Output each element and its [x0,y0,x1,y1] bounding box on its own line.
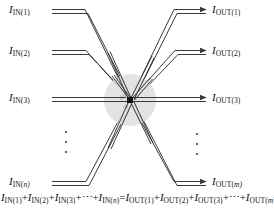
label-input-n-subscript: IN(n) [13,180,30,189]
conservation-equation: IIN(1)+IIN(2)+IIN(3)+⋯+IIN(n)=IOUT(1)+IO… [1,191,274,205]
label-input-1-subscript: IN(1) [13,8,30,17]
label-output-m-subscript: OUT(m) [216,180,242,189]
equation-rhs: IOUT(1)+IOUT(2)+IOUT(3)+⋯+IOUT(m) [125,191,274,203]
ellipsis-dot [196,143,198,145]
equation-rhs-ellipsis: ⋯ [229,191,240,203]
label-output-3: IOUT(3) [212,92,240,105]
ellipsis-dot [196,133,198,135]
label-output-2: IOUT(2) [212,45,240,58]
ellipsis-dot [65,141,67,143]
label-input-3-subscript: IN(3) [13,96,30,105]
equation-lhs-ellipsis: ⋯ [82,191,93,203]
label-output-3-subscript: OUT(3) [216,96,241,105]
label-input-n: IIN(n) [9,176,30,189]
label-input-1: IIN(1) [9,4,30,17]
ellipsis-dot [196,153,198,155]
label-output-1: IOUT(1) [212,4,240,17]
label-output-2-subscript: OUT(2) [216,49,241,58]
equation-lhs: IIN(1)+IIN(2)+IIN(3)+⋯+IIN(n) [1,191,119,203]
ellipsis-dot [65,151,67,153]
ellipsis-dot [65,131,67,133]
current-node-diagram: IIN(1) IIN(2) IIN(3) IIN(n) IOUT(1) IOUT… [0,0,274,209]
label-input-2: IIN(2) [9,45,30,58]
junction-node [127,97,133,103]
ellipsis-inputs [64,131,68,153]
ellipsis-outputs [195,133,199,155]
label-input-2-subscript: IN(2) [13,49,30,58]
label-output-m: IOUT(m) [212,176,242,189]
label-output-1-subscript: OUT(1) [216,8,241,17]
label-input-3: IIN(3) [9,92,30,105]
